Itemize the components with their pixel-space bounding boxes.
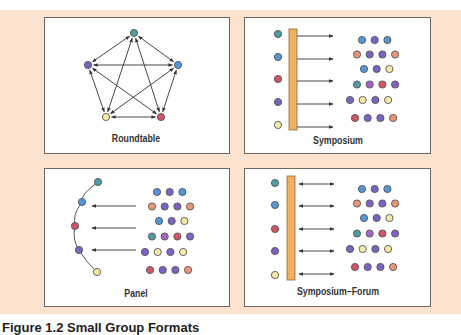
audience-member xyxy=(185,266,192,273)
audience-member xyxy=(159,266,166,273)
audience-member xyxy=(390,114,397,121)
audience-member xyxy=(166,188,173,195)
double-arrow-icon xyxy=(138,36,173,62)
double-arrow-icon xyxy=(163,70,177,112)
audience-member xyxy=(366,200,373,207)
speaker-node xyxy=(271,179,278,186)
audience-member xyxy=(155,217,162,224)
symposium-diagram xyxy=(274,29,398,130)
audience-member xyxy=(379,200,386,207)
audience-member xyxy=(373,214,380,221)
audience-member xyxy=(358,185,365,192)
audience-member xyxy=(392,51,399,58)
double-arrow-icon xyxy=(93,36,130,62)
audience-member xyxy=(353,200,360,207)
audience-member xyxy=(377,263,384,270)
audience-member xyxy=(386,214,393,221)
audience-member xyxy=(360,65,367,72)
audience-member xyxy=(366,230,373,237)
speaker-node xyxy=(274,30,281,37)
double-arrow-icon xyxy=(90,70,104,112)
panelist-node xyxy=(93,268,100,275)
audience-member xyxy=(172,266,179,273)
symposium-forum-label: Symposium–Forum xyxy=(285,286,391,297)
audience-member xyxy=(148,233,155,240)
audience-member xyxy=(385,245,392,252)
audience-member xyxy=(390,263,397,270)
audience-member xyxy=(384,36,391,43)
audience-member xyxy=(373,65,380,72)
audience-member xyxy=(154,248,161,255)
audience-member xyxy=(141,248,148,255)
audience-member xyxy=(351,114,358,121)
audience-member xyxy=(366,81,373,88)
speaker-node xyxy=(271,247,278,254)
audience-member xyxy=(360,214,367,221)
symposium-forum-diagram xyxy=(271,176,398,280)
speaker-node xyxy=(271,271,278,278)
audience-member xyxy=(392,81,399,88)
participant-node xyxy=(157,113,164,120)
audience-member xyxy=(359,96,366,103)
audience-member xyxy=(379,230,386,237)
audience-member xyxy=(384,185,391,192)
audience-member xyxy=(358,36,365,43)
audience-member xyxy=(181,217,188,224)
audience-member xyxy=(386,65,393,72)
audience-member xyxy=(371,185,378,192)
participant-node xyxy=(84,61,91,68)
audience-member xyxy=(364,263,371,270)
audience-member xyxy=(187,203,194,210)
audience-member xyxy=(379,51,386,58)
audience-member xyxy=(372,245,379,252)
audience-member xyxy=(353,81,360,88)
participant-node xyxy=(130,29,137,36)
audience-member xyxy=(392,230,399,237)
audience-member xyxy=(153,188,160,195)
moderator-bar xyxy=(289,29,297,130)
participant-node xyxy=(102,113,109,120)
audience-member xyxy=(372,96,379,103)
roundtable-label: Roundtable xyxy=(92,133,180,144)
panel-diagram xyxy=(71,178,193,275)
audience-member xyxy=(379,81,386,88)
audience-member xyxy=(180,248,187,255)
audience-member xyxy=(364,114,371,121)
audience-member xyxy=(174,233,181,240)
audience-member xyxy=(168,217,175,224)
roundtable-diagram xyxy=(84,29,181,120)
speaker-node xyxy=(271,225,278,232)
panelist-node xyxy=(71,222,78,229)
audience-member xyxy=(346,96,353,103)
speaker-node xyxy=(274,121,281,128)
panelist-node xyxy=(94,178,101,185)
audience-member xyxy=(161,233,168,240)
audience-member xyxy=(392,200,399,207)
audience-member xyxy=(148,203,155,210)
audience-member xyxy=(359,245,366,252)
speaker-node xyxy=(274,53,281,60)
audience-member xyxy=(174,203,181,210)
audience-member xyxy=(353,51,360,58)
audience-member xyxy=(377,114,384,121)
audience-member xyxy=(351,263,358,270)
moderator-bar xyxy=(287,176,295,280)
audience-member xyxy=(346,245,353,252)
symposium-label: Symposium xyxy=(294,135,382,146)
audience-member xyxy=(187,233,194,240)
audience-member xyxy=(371,36,378,43)
figure-caption: Figure 1.2 Small Group Formats xyxy=(2,320,199,335)
speaker-node xyxy=(271,201,278,208)
audience-member xyxy=(353,230,360,237)
panel-label: Panel xyxy=(92,288,180,299)
audience-member xyxy=(146,266,153,273)
audience-member xyxy=(167,248,174,255)
panelist-node xyxy=(75,246,82,253)
panelist-node xyxy=(78,198,85,205)
audience-member xyxy=(179,188,186,195)
speaker-node xyxy=(274,98,281,105)
audience-member xyxy=(161,203,168,210)
speaker-node xyxy=(274,75,281,82)
audience-member xyxy=(385,96,392,103)
